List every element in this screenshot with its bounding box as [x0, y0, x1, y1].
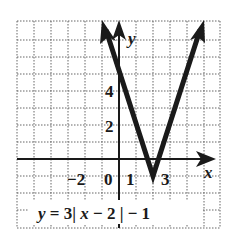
tick-label-0: 0	[104, 170, 113, 189]
tick-label-y2: 2	[105, 117, 114, 136]
x-axis-label: x	[203, 163, 213, 182]
tick-label-1: 1	[126, 170, 135, 189]
equation-middle: = 3|	[46, 204, 81, 223]
equation-y: y	[36, 204, 46, 223]
tick-label-neg2: −2	[67, 170, 85, 189]
equation-x: x	[79, 204, 89, 223]
tick-label-y4: 4	[105, 82, 114, 101]
tick-label-3: 3	[161, 170, 170, 189]
equation-tail: − 2 | − 1	[89, 204, 150, 223]
equation-label: y = 3| x − 2 | − 1	[36, 204, 150, 223]
graph-canvas: −2 0 1 3 2 4 x y y = 3| x − 2 | − 1	[0, 0, 230, 238]
y-axis-label: y	[126, 29, 136, 48]
